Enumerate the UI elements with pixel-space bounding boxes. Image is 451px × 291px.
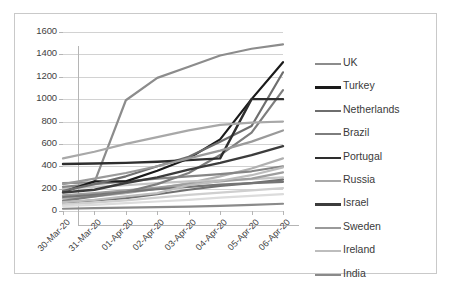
legend-label: Turkey bbox=[343, 79, 375, 91]
legend-line-icon bbox=[315, 250, 341, 252]
legend-line-icon bbox=[315, 274, 341, 276]
legend-item-russia[interactable]: Russia bbox=[315, 171, 445, 194]
legend-line-icon bbox=[315, 227, 341, 229]
legend-line-icon bbox=[315, 63, 341, 65]
legend-item-turkey[interactable]: Turkey bbox=[315, 77, 445, 100]
legend-item-india[interactable]: India bbox=[315, 265, 445, 288]
legend-label: Portugal bbox=[343, 150, 382, 162]
chart-container: 16001400120010008006004002000 30-Mar-203… bbox=[0, 0, 451, 291]
legend-item-israel[interactable]: Israel bbox=[315, 194, 445, 217]
chart-legend: UKTurkeyNetherlandsBrazilPortugalRussiaI… bbox=[315, 54, 445, 288]
chart-frame: 16001400120010008006004002000 30-Mar-203… bbox=[14, 13, 437, 274]
legend-line-icon bbox=[315, 157, 341, 159]
legend-label: Sweden bbox=[343, 220, 381, 232]
legend-item-portugal[interactable]: Portugal bbox=[315, 148, 445, 171]
legend-line-icon bbox=[315, 110, 341, 112]
legend-item-sweden[interactable]: Sweden bbox=[315, 218, 445, 241]
legend-item-netherlands[interactable]: Netherlands bbox=[315, 101, 445, 124]
legend-label: UK bbox=[343, 56, 358, 68]
legend-item-ireland[interactable]: Ireland bbox=[315, 241, 445, 264]
legend-line-icon bbox=[315, 180, 341, 182]
legend-label: Israel bbox=[343, 196, 369, 208]
legend-line-icon bbox=[315, 133, 341, 135]
legend-line-icon bbox=[315, 86, 341, 88]
legend-label: Russia bbox=[343, 173, 375, 185]
legend-label: India bbox=[343, 267, 366, 279]
legend-item-brazil[interactable]: Brazil bbox=[315, 124, 445, 147]
legend-label: Brazil bbox=[343, 126, 369, 138]
legend-line-icon bbox=[315, 203, 341, 205]
legend-label: Ireland bbox=[343, 243, 375, 255]
legend-label: Netherlands bbox=[343, 103, 400, 115]
legend-item-uk[interactable]: UK bbox=[315, 54, 445, 77]
